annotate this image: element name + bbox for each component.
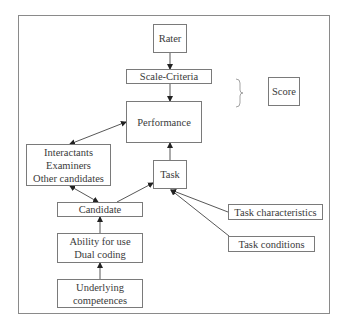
node-rater-label: Rater: [159, 32, 182, 45]
node-task-characteristics: Task characteristics: [228, 204, 323, 220]
arrow-interlocutors-performance: [70, 122, 126, 144]
node-ability-line1: Ability for use: [69, 235, 130, 248]
brace-icon: [236, 79, 243, 107]
node-performance: Performance: [126, 101, 202, 143]
node-task-characteristics-label: Task characteristics: [234, 206, 316, 219]
node-performance-label: Performance: [137, 116, 191, 129]
node-ability-line2: Dual coding: [74, 248, 126, 261]
node-score: Score: [268, 77, 300, 106]
node-task: Task: [153, 160, 187, 189]
arrow-candidate-to-task: [117, 183, 153, 202]
arrow-interlocutors-candidate: [70, 186, 98, 202]
node-task-conditions-label: Task conditions: [238, 238, 304, 251]
node-scale-criteria: Scale-Criteria: [126, 69, 212, 84]
node-task-conditions: Task conditions: [228, 236, 315, 252]
node-interlocutors-line2: Examiners: [46, 159, 91, 172]
node-score-label: Score: [272, 85, 296, 98]
node-scale-criteria-label: Scale-Criteria: [140, 70, 198, 83]
node-competences: Underlying competences: [57, 279, 143, 308]
arrow-conditions-to-task: [171, 190, 229, 236]
node-ability: Ability for use Dual coding: [57, 233, 143, 263]
node-competences-line1: Underlying: [76, 281, 124, 294]
node-candidate-label: Candidate: [79, 203, 122, 216]
arrow-characteristics-to-task: [171, 190, 228, 212]
node-competences-line2: competences: [73, 294, 127, 307]
node-interlocutors-line1: Interactants: [44, 146, 93, 159]
node-interlocutors: Interactants Examiners Other candidates: [26, 144, 111, 186]
node-task-label: Task: [160, 168, 180, 181]
node-candidate: Candidate: [57, 202, 143, 217]
node-rater: Rater: [153, 24, 187, 53]
node-interlocutors-line3: Other candidates: [33, 172, 104, 185]
